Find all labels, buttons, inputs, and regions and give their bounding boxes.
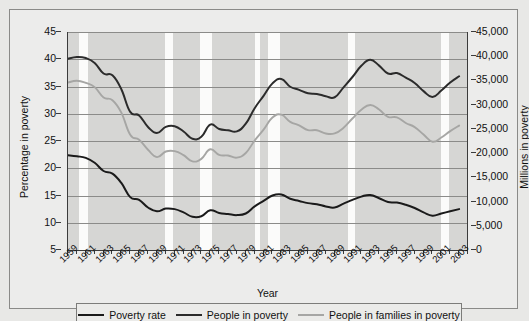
right-tick-label: 35,000 (476, 73, 508, 85)
tick-mark (471, 152, 476, 153)
right-axis-line (467, 32, 468, 250)
legend-swatch (298, 314, 324, 316)
tick-mark (471, 201, 476, 202)
figure-frame: 45403530252015105 45,00040,00035,00030,0… (9, 9, 518, 309)
tick-mark (471, 104, 476, 105)
right-tick-label: 40,000 (476, 49, 508, 61)
left-tick-label: 30 (44, 107, 56, 119)
tick-mark (471, 176, 476, 177)
tick-mark (471, 128, 476, 129)
tick-mark (471, 249, 476, 250)
tick-mark (56, 31, 61, 32)
tick-mark (56, 58, 61, 59)
right-tick-label: 20,000 (476, 146, 508, 158)
left-axis-title: Percentage in poverty (18, 47, 30, 247)
left-tick-label: 25 (44, 134, 56, 146)
tick-mark (56, 195, 61, 196)
tick-mark (56, 222, 61, 223)
x-axis-title: Year (67, 287, 468, 299)
legend-label: People in poverty (207, 309, 288, 321)
legend-label: People in families in poverty (329, 309, 460, 321)
series-line (68, 81, 459, 162)
right-tick-label: 5,000 (476, 219, 502, 231)
series-layer (68, 32, 468, 250)
chart-figure: 45403530252015105 45,00040,00035,00030,0… (0, 0, 529, 321)
right-tick-label: 15,000 (476, 170, 508, 182)
tick-mark (471, 31, 476, 32)
tick-mark (471, 55, 476, 56)
right-tick-label: 0 (476, 243, 482, 255)
right-tick-label: 45,000 (476, 25, 508, 37)
right-axis-title: Millions in poverty (518, 47, 529, 247)
series-line (68, 155, 459, 217)
left-tick-label: 40 (44, 52, 56, 64)
legend-swatch (176, 314, 202, 316)
legend-item: Poverty rate (78, 309, 166, 321)
tick-mark (56, 140, 61, 141)
left-tick-label: 20 (44, 161, 56, 173)
right-tick-label: 10,000 (476, 195, 508, 207)
chart-legend: Poverty ratePeople in povertyPeople in f… (76, 303, 462, 321)
right-tick-label: 25,000 (476, 122, 508, 134)
tick-mark (56, 249, 61, 250)
left-axis-line (67, 32, 68, 250)
tick-mark (56, 86, 61, 87)
left-tick-label: 5 (50, 243, 56, 255)
tick-mark (471, 79, 476, 80)
legend-item: People in families in poverty (298, 309, 460, 321)
plot-area (67, 32, 467, 250)
right-tick-label: 30,000 (476, 98, 508, 110)
left-tick-label: 45 (44, 25, 56, 37)
legend-item: People in poverty (176, 309, 288, 321)
legend-label: Poverty rate (109, 309, 166, 321)
tick-mark (56, 113, 61, 114)
left-tick-label: 10 (44, 216, 56, 228)
tick-mark (471, 225, 476, 226)
left-tick-label: 35 (44, 80, 56, 92)
left-tick-label: 15 (44, 189, 56, 201)
legend-swatch (78, 314, 104, 316)
tick-mark (56, 167, 61, 168)
